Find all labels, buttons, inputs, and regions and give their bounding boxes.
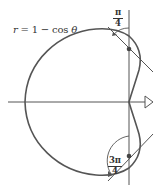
angle-denominator: 4 [115, 19, 121, 28]
tangent-point-lower [127, 154, 132, 159]
equation-eq: = 1 − [18, 24, 52, 35]
angle-label-3pi-4: 3π 4 [108, 156, 122, 176]
angle-numerator: π [115, 8, 121, 17]
angle-label-pi-4: π 4 [113, 8, 123, 28]
angle-denominator: 4 [112, 167, 118, 176]
equation-var: θ [68, 24, 77, 35]
equation-fn: cos [52, 24, 68, 35]
axis-arrowhead-icon [145, 96, 153, 108]
equation-label: r = 1 − cos θ [13, 24, 77, 35]
angle-numerator: 3π [109, 156, 121, 165]
tangent-point-upper [127, 47, 132, 52]
